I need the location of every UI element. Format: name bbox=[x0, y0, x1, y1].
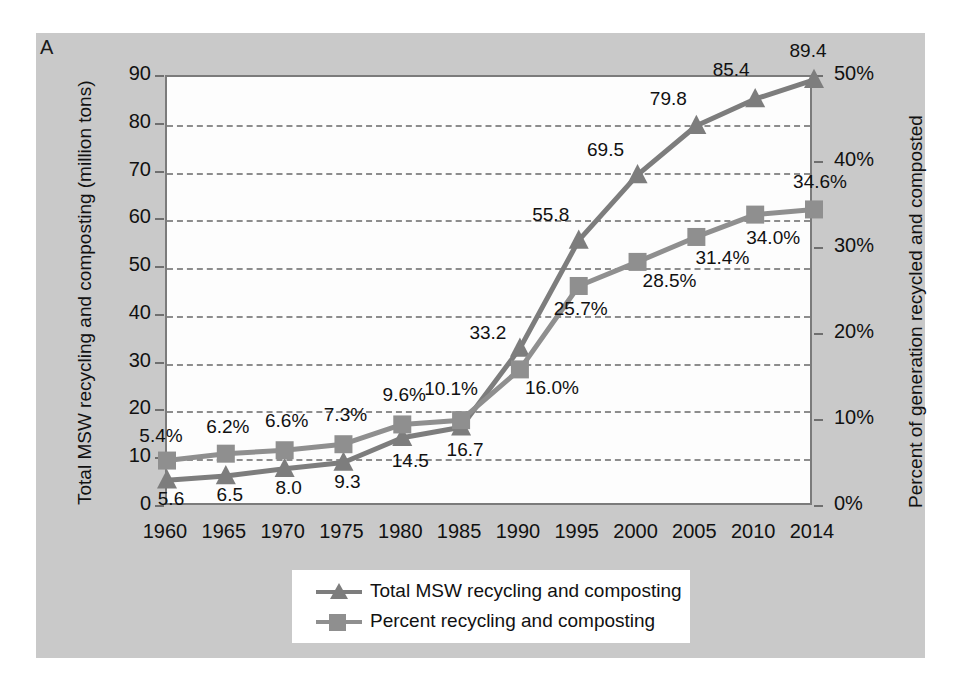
square-marker-icon bbox=[511, 360, 529, 378]
x-axis-tick-label: 1965 bbox=[194, 520, 254, 543]
data-point-label: 79.8 bbox=[650, 88, 687, 110]
y-axis-left-tick-label: 60 bbox=[105, 205, 151, 228]
data-point-label: 6.2% bbox=[206, 416, 249, 438]
data-point-label: 85.4 bbox=[713, 59, 750, 81]
series-layer bbox=[167, 77, 814, 507]
data-point-label: 33.2 bbox=[469, 322, 506, 344]
square-marker-icon bbox=[158, 452, 176, 470]
x-axis-tick-label: 2010 bbox=[723, 520, 783, 543]
data-point-label: 25.7% bbox=[554, 298, 608, 320]
y-axis-left-tick-label: 70 bbox=[105, 158, 151, 181]
x-axis-tick-label: 1980 bbox=[370, 520, 430, 543]
data-point-label: 9.3 bbox=[334, 471, 360, 493]
y-axis-right-title: Percent of generation recycled and compo… bbox=[905, 115, 927, 508]
y-axis-right-tick-mark bbox=[814, 247, 823, 249]
data-point-label: 6.6% bbox=[265, 410, 308, 432]
x-axis-tick-label: 1985 bbox=[429, 520, 489, 543]
panel-letter: A bbox=[40, 36, 54, 59]
y-axis-left-tick-label: 10 bbox=[105, 444, 151, 467]
square-marker-icon bbox=[334, 435, 352, 453]
y-axis-left-tick-mark bbox=[155, 266, 164, 268]
square-marker-icon bbox=[314, 609, 364, 633]
legend-label-percent: Percent recycling and composting bbox=[370, 610, 655, 632]
data-point-label: 5.6 bbox=[158, 488, 184, 510]
y-axis-left-tick-mark bbox=[155, 75, 164, 77]
data-point-label: 16.0% bbox=[525, 377, 579, 399]
y-axis-right-tick-label: 40% bbox=[834, 148, 904, 171]
y-axis-left-tick-mark bbox=[155, 409, 164, 411]
legend-item-total-msw[interactable]: Total MSW recycling and composting bbox=[314, 576, 682, 606]
data-point-label: 34.0% bbox=[746, 227, 800, 249]
y-axis-right-tick-label: 10% bbox=[834, 406, 904, 429]
y-axis-right-tick-mark bbox=[814, 505, 823, 507]
y-axis-left-tick-label: 90 bbox=[105, 62, 151, 85]
data-point-label: 14.5 bbox=[392, 450, 429, 472]
data-point-label: 89.4 bbox=[790, 40, 827, 62]
x-axis-tick-label: 1975 bbox=[311, 520, 371, 543]
y-axis-right-tick-mark bbox=[814, 333, 823, 335]
y-axis-left-title: Total MSW recycling and composting (mill… bbox=[74, 81, 96, 506]
y-axis-right-tick-label: 30% bbox=[834, 234, 904, 257]
square-marker-icon bbox=[570, 277, 588, 295]
y-axis-left-tick-mark bbox=[155, 171, 164, 173]
square-marker-icon bbox=[746, 206, 764, 224]
data-point-label: 28.5% bbox=[643, 270, 697, 292]
x-axis-tick-label: 2000 bbox=[606, 520, 666, 543]
data-point-label: 69.5 bbox=[587, 139, 624, 161]
y-axis-left-tick-label: 30 bbox=[105, 349, 151, 372]
square-marker-icon bbox=[217, 445, 235, 463]
y-axis-left-tick-label: 0 bbox=[105, 492, 151, 515]
legend-label-total-msw: Total MSW recycling and composting bbox=[370, 580, 682, 602]
x-axis-tick-label: 1970 bbox=[253, 520, 313, 543]
x-axis-tick-label: 1990 bbox=[488, 520, 548, 543]
data-point-label: 34.6% bbox=[793, 171, 847, 193]
data-point-label: 55.8 bbox=[532, 204, 569, 226]
square-marker-icon bbox=[629, 253, 647, 271]
data-point-label: 10.1% bbox=[424, 378, 478, 400]
legend-item-percent[interactable]: Percent recycling and composting bbox=[314, 606, 655, 636]
data-point-label: 8.0 bbox=[275, 477, 301, 499]
square-marker-icon bbox=[393, 415, 411, 433]
x-axis-tick-label: 2014 bbox=[782, 520, 842, 543]
y-axis-left-tick-label: 50 bbox=[105, 253, 151, 276]
chart-legend: Total MSW recycling and composting Perce… bbox=[292, 570, 690, 643]
y-axis-left-tick-label: 20 bbox=[105, 396, 151, 419]
data-point-label: 9.6% bbox=[383, 384, 426, 406]
square-marker-icon bbox=[452, 411, 470, 429]
y-axis-left-tick-label: 80 bbox=[105, 110, 151, 133]
data-point-label: 7.3% bbox=[324, 404, 367, 426]
y-axis-left-tick-label: 40 bbox=[105, 301, 151, 324]
data-point-label: 6.5 bbox=[217, 484, 243, 506]
y-axis-right-tick-label: 20% bbox=[834, 320, 904, 343]
y-axis-right-tick-label: 50% bbox=[834, 62, 904, 85]
data-point-label: 5.4% bbox=[139, 425, 182, 447]
x-axis-tick-label: 2005 bbox=[664, 520, 724, 543]
chart-figure: A Total MSW recycling and composting (mi… bbox=[0, 0, 961, 689]
square-marker-icon bbox=[276, 441, 294, 459]
square-marker-icon bbox=[805, 200, 823, 218]
y-axis-right-tick-label: 0% bbox=[834, 492, 904, 515]
square-marker-icon bbox=[687, 228, 705, 246]
y-axis-left-tick-mark bbox=[155, 218, 164, 220]
x-axis-tick-label: 1960 bbox=[135, 520, 195, 543]
data-point-label: 31.4% bbox=[695, 247, 749, 269]
y-axis-right-tick-mark bbox=[814, 419, 823, 421]
triangle-marker-icon bbox=[314, 579, 364, 603]
y-axis-left-tick-mark bbox=[155, 123, 164, 125]
x-axis-tick-label: 1995 bbox=[547, 520, 607, 543]
plot-area bbox=[165, 75, 812, 505]
data-point-label: 16.7 bbox=[447, 439, 484, 461]
y-axis-left-tick-mark bbox=[155, 314, 164, 316]
y-axis-left-tick-mark bbox=[155, 362, 164, 364]
y-axis-right-tick-mark bbox=[814, 161, 823, 163]
